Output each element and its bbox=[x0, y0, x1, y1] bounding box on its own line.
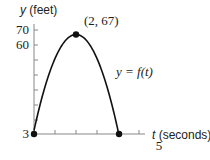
y-axis-unit: (feet) bbox=[29, 3, 57, 17]
data-point bbox=[116, 131, 122, 137]
y-axis-variable: y bbox=[19, 3, 29, 17]
data-point bbox=[31, 131, 37, 137]
chart: 706035(2, 67)y = f(t)y (feet)t (seconds) bbox=[0, 0, 210, 160]
x-axis-label: t (seconds) bbox=[152, 128, 210, 142]
y-tick-label: 3 bbox=[23, 126, 30, 141]
curve-y-equals-f-of-t bbox=[34, 35, 119, 134]
x-axis-variable: t bbox=[152, 128, 159, 142]
y-tick-label: 70 bbox=[16, 22, 29, 37]
data-point bbox=[73, 31, 79, 37]
point-label: (2, 67) bbox=[84, 13, 119, 28]
curve-label: y = f(t) bbox=[114, 64, 153, 79]
y-axis-label: y (feet) bbox=[19, 3, 57, 17]
y-tick-label: 60 bbox=[16, 37, 29, 52]
x-axis-unit: (seconds) bbox=[159, 128, 210, 142]
